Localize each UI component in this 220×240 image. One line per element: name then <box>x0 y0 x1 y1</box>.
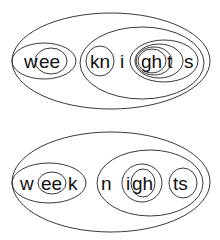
segment-ee: ee <box>41 173 62 194</box>
diagram-weeknights: w ee kn i gh t s <box>12 13 210 109</box>
nested-grouping-diagram: w ee kn i gh t s w ee k n i gh ts <box>0 0 220 240</box>
segment-w: w <box>23 51 38 72</box>
segment-n: n <box>101 173 112 194</box>
segment-i: i <box>120 51 124 72</box>
segment-kn: kn <box>90 51 110 72</box>
segment-i: i <box>126 173 130 194</box>
segment-ts: ts <box>173 173 188 194</box>
segment-gh: gh <box>132 173 153 194</box>
segment-ee: ee <box>39 51 60 72</box>
segment-w: w <box>19 173 34 194</box>
segment-t: t <box>167 51 173 72</box>
diagram-week-nights: w ee k n i gh ts <box>12 132 210 232</box>
segment-gh: gh <box>141 51 162 72</box>
segment-k: k <box>68 173 78 194</box>
segment-s: s <box>184 51 194 72</box>
